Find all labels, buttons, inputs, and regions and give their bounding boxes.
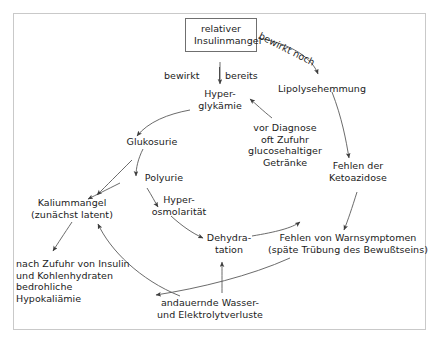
node-hyperglykaemie[interactable]: Hyper- glykämie [186, 88, 254, 111]
node-dehydratation[interactable]: Dehydra- tation [200, 232, 258, 255]
node-lipolysehemmung[interactable]: Lipolysehemmung [277, 83, 367, 95]
node-bedrohliche-hypokaliaemie[interactable]: nach Zufuhr von Insulin und Kohlenhydrat… [16, 258, 138, 304]
bewirkt-bereits-divider [219, 67, 220, 82]
diagram-canvas: relativer Insulinmangel bewirkt bereits … [0, 0, 445, 344]
edge-label-bereits: bereits [225, 70, 258, 82]
node-fehlen-ketoazidose[interactable]: Fehlen der Ketoazidose [323, 160, 393, 183]
node-glukosurie[interactable]: Glukosurie [121, 136, 183, 148]
node-polyurie[interactable]: Polyurie [136, 172, 192, 184]
node-fehlen-warnsymptome[interactable]: Fehlen von Warnsymptomen (späte Trübung … [268, 232, 428, 255]
node-hyperosmolaritaet[interactable]: Hyper- osmolarität [143, 194, 215, 217]
node-relativer-insulinmangel[interactable]: relativer Insulinmangel [185, 18, 257, 52]
edge-label-bewirkt: bewirkt [164, 70, 199, 82]
node-kaliummangel[interactable]: Kaliummangel (zunächst latent) [28, 197, 116, 220]
node-wasser-elektrolytverluste[interactable]: andauernde Wasser- und Elektrolytverlust… [152, 297, 268, 320]
node-getraenke-zufuhr[interactable]: vor Diagnose oft Zufuhr glucosehaltiger … [239, 122, 331, 168]
